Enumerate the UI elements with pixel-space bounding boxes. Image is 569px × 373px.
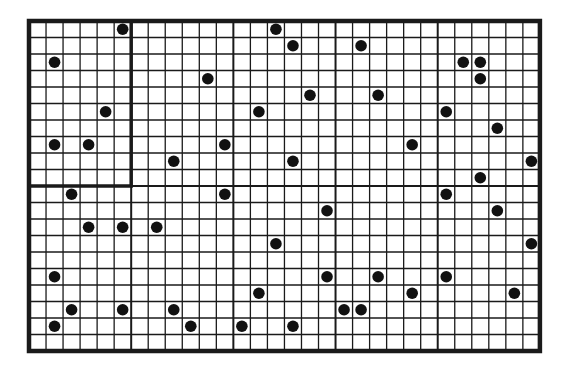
dot (66, 188, 78, 200)
dot (117, 23, 129, 35)
dot (321, 271, 333, 283)
dot (509, 287, 521, 299)
dot (253, 106, 265, 118)
dot (49, 271, 61, 283)
dot (355, 40, 367, 52)
dot (253, 287, 265, 299)
dot (168, 304, 180, 316)
dot (49, 56, 61, 68)
dot (406, 139, 418, 151)
dot (168, 155, 180, 167)
dot (287, 320, 299, 332)
dot (440, 188, 452, 200)
dot (100, 106, 112, 118)
dot (83, 139, 95, 151)
dot (49, 320, 61, 332)
dot (83, 221, 95, 233)
dot (440, 271, 452, 283)
dot (526, 238, 538, 250)
dot (321, 205, 333, 217)
dots-layer (49, 23, 537, 332)
dot (117, 221, 129, 233)
dot-grid-diagram (0, 0, 569, 373)
dot (287, 40, 299, 52)
dot (492, 205, 504, 217)
dot (270, 238, 282, 250)
dot (202, 73, 214, 85)
dot (66, 304, 78, 316)
dot (372, 271, 384, 283)
dot (474, 73, 486, 85)
dot (372, 89, 384, 101)
dot (185, 320, 197, 332)
dot (355, 304, 367, 316)
dot (338, 304, 350, 316)
dot (49, 139, 61, 151)
dot (474, 172, 486, 184)
dot (287, 155, 299, 167)
dot (474, 56, 486, 68)
dot (406, 287, 418, 299)
dot (304, 89, 316, 101)
dot (440, 106, 452, 118)
dot (219, 188, 231, 200)
dot (526, 155, 538, 167)
dot (270, 23, 282, 35)
dot (457, 56, 469, 68)
dot (117, 304, 129, 316)
dot (236, 320, 248, 332)
dot (492, 122, 504, 134)
dot (151, 221, 163, 233)
dot (219, 139, 231, 151)
